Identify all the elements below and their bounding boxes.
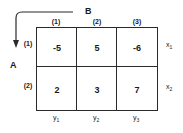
row-var-1: x1 <box>166 41 172 50</box>
row-var-2-sub: 2 <box>170 86 173 92</box>
col-var-1: y1 <box>53 114 59 123</box>
col-var-2: y2 <box>93 114 99 123</box>
col-header-3: (3) <box>130 18 144 25</box>
row-header-2: (2) <box>21 82 35 89</box>
cell-r2-c3: 7 <box>117 70 157 110</box>
col-var-3-sub: 3 <box>137 117 140 123</box>
player-b-label: B <box>85 6 92 16</box>
col-var-1-sub: 1 <box>57 117 60 123</box>
cell-r1-c2: 5 <box>77 28 117 68</box>
row-header-1: (1) <box>21 40 35 47</box>
cell-r2-c2: 3 <box>77 70 117 110</box>
row-var-2: x2 <box>166 83 172 92</box>
payoff-matrix: -5 5 -6 2 3 7 <box>36 27 158 111</box>
player-a-label: A <box>10 60 17 70</box>
cell-r2-c1: 2 <box>37 70 77 110</box>
row-var-1-sub: 1 <box>170 44 173 50</box>
col-header-1: (1) <box>49 18 63 25</box>
col-var-2-sub: 2 <box>97 117 100 123</box>
col-header-2: (2) <box>90 18 104 25</box>
col-var-3: y3 <box>133 114 139 123</box>
cell-r1-c3: -6 <box>117 28 157 68</box>
cell-r1-c1: -5 <box>37 28 77 68</box>
